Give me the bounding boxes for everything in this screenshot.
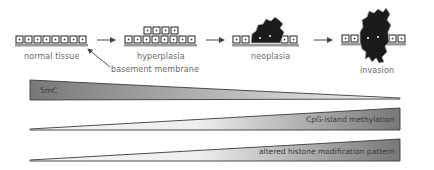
wedge-label-5mC: 5mC — [40, 86, 57, 95]
wedge-label-cpg-island-methylation: CpG-island methylation — [306, 115, 394, 124]
stage-normal-tissue — [15, 36, 88, 47]
stage-label-hyperplasia: hyperplasia — [137, 52, 185, 61]
basement-membrane — [232, 44, 299, 47]
stage-hyperplasia — [124, 27, 197, 47]
pointer-arrow-icon — [88, 49, 110, 67]
epithelial-cells — [16, 36, 86, 43]
stage-label-invasion: invasion — [360, 66, 394, 75]
carcinogenesis-diagram — [0, 0, 434, 170]
basement-membrane-label: basement membrane — [111, 65, 199, 74]
wedge-label-histone-modification: altered histone modification pattern — [259, 147, 394, 156]
stage-invasion — [341, 8, 406, 63]
stage-neoplasia — [232, 17, 299, 47]
basement-membrane — [15, 44, 88, 47]
basement-membrane — [124, 44, 197, 47]
invasive-tumor-mass — [360, 8, 391, 63]
tumor-mass — [251, 17, 284, 43]
stage-label-neoplasia: neoplasia — [251, 52, 290, 61]
stage-label-normal-tissue: normal tissue — [24, 52, 80, 61]
wedge-5mC — [30, 80, 400, 100]
